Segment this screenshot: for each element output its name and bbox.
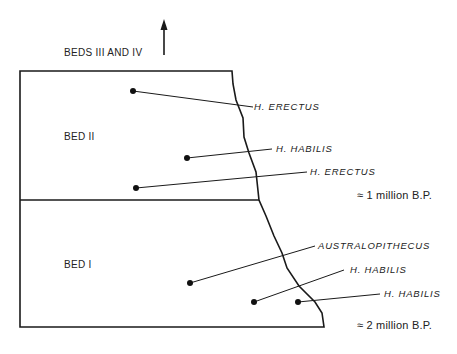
bed-label: BED I: [64, 259, 92, 270]
fossil-dot: [251, 299, 257, 305]
date-label: ≈ 1 million B.P.: [357, 189, 432, 201]
fossil-label: H. HABILIS: [350, 264, 407, 275]
fossil-dot: [187, 280, 193, 286]
fossil-label: H. HABILIS: [384, 288, 441, 299]
fossil-dot: [295, 299, 301, 305]
date-label: ≈ 2 million B.P.: [357, 319, 432, 331]
top-beds-label: BEDS III AND IV: [64, 47, 142, 58]
fossil-label: H. ERECTUS: [254, 101, 320, 112]
fossil-label: H. ERECTUS: [310, 166, 376, 177]
fossil-dot: [184, 155, 190, 161]
fossil-dot: [130, 88, 136, 94]
bed-label: BED II: [64, 131, 95, 142]
arrow-up-icon: [161, 19, 168, 55]
fossil-label: AUSTRALOPITHECUS: [318, 240, 430, 251]
fossil-label: H. HABILIS: [276, 143, 333, 154]
fossil-dot: [133, 185, 139, 191]
